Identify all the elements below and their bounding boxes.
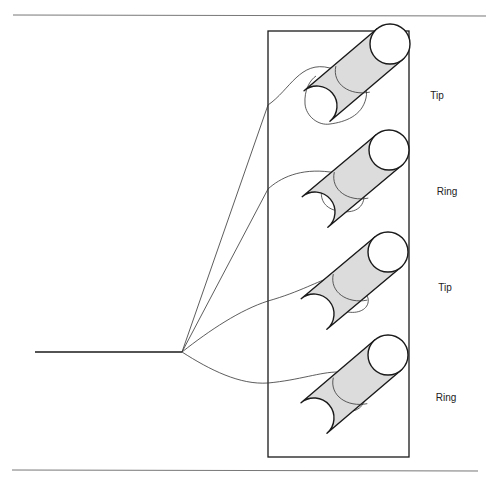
terminal-label-ring-2: Ring	[436, 392, 457, 403]
diagram-svg	[0, 0, 486, 484]
terminal-label-ring-1: Ring	[437, 186, 458, 197]
cylinder-end	[368, 335, 408, 375]
terminal-label-tip-2: Tip	[438, 282, 452, 293]
terminal-cylinder-3	[301, 232, 408, 329]
terminal-label-tip-1: Tip	[430, 90, 444, 101]
terminal-cylinder-2	[302, 130, 409, 227]
top-rule	[13, 15, 486, 16]
terminal-cylinder-1	[304, 24, 410, 121]
terminal-cylinder-4	[301, 335, 408, 433]
rules	[12, 15, 486, 471]
cylinder-end	[370, 24, 410, 64]
diagram-canvas: Tip Ring Tip Ring	[0, 0, 486, 484]
cylinder-end	[369, 130, 409, 170]
wires	[182, 67, 368, 412]
cylinder-end	[368, 232, 408, 272]
terminals	[301, 24, 410, 433]
bottom-rule	[12, 470, 478, 471]
